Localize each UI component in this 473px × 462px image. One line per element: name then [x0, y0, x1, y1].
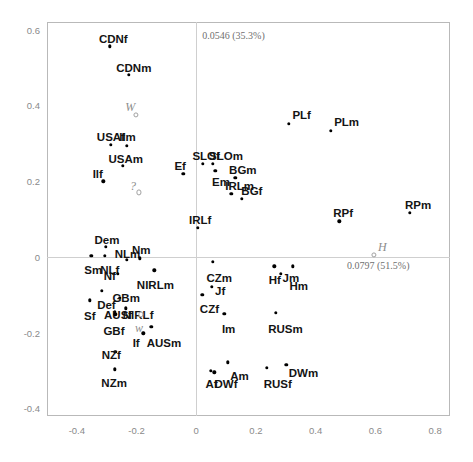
data-point-label: Sf [84, 311, 96, 323]
data-point-label: CZm [206, 273, 232, 285]
data-point-label: BGf [241, 186, 262, 198]
data-point-label: Nm [132, 245, 151, 257]
scatter-plot-canvas: 0.0546 (35.3%) 0.0797 (51.5%) -0.4-0.200… [0, 0, 473, 462]
data-point-label: Nf [104, 271, 116, 283]
y-tick-label: 0 [6, 251, 40, 262]
vertical-axis-annotation: 0.0546 (35.3%) [202, 30, 265, 41]
data-point-label: Jf [215, 286, 225, 298]
data-point-label: Hf [269, 275, 281, 287]
data-point-label: DWf [214, 379, 237, 391]
data-point-label: Ilm [119, 132, 136, 144]
data-point-label: PLf [292, 110, 311, 122]
x-tick-label: -0.4 [69, 425, 85, 436]
x-tick-label: 0 [194, 425, 199, 436]
data-point-label: GBm [112, 293, 139, 305]
data-point-label: CDNm [116, 63, 151, 75]
y-tick-label: -0.2 [6, 327, 40, 338]
data-point-label: DWm [289, 368, 318, 380]
horizontal-zero-axis [47, 257, 450, 258]
y-tick-label: 0.4 [6, 100, 40, 111]
x-tick-label: -0.2 [128, 425, 144, 436]
data-point-label: Hm [289, 281, 308, 293]
data-point-label: USAm [108, 154, 143, 166]
y-tick-label: 0.2 [6, 176, 40, 187]
horizontal-axis-annotation: 0.0797 (51.5%) [347, 260, 410, 271]
data-point-label: Im [222, 324, 235, 336]
data-point-label: NZm [101, 378, 127, 390]
data-point-label: ? [130, 180, 136, 192]
data-point-label: AUSm [147, 338, 182, 350]
data-point-label: IRLf [189, 215, 211, 227]
data-point-label: If [133, 338, 140, 350]
data-point-label: RUSm [268, 324, 303, 336]
data-point-label: W [125, 101, 135, 113]
x-tick-label: 0.4 [309, 425, 322, 436]
data-point-label: RUSf [264, 379, 292, 391]
y-tick-label: -0.4 [6, 403, 40, 414]
data-point-label: Ef [174, 161, 186, 173]
x-tick-label: 0.8 [428, 425, 441, 436]
data-point-label: Dem [94, 235, 119, 247]
x-tick-label: 0.6 [369, 425, 382, 436]
data-point-label: RPm [405, 200, 431, 212]
data-point-label: BGm [229, 165, 256, 177]
data-point-label: CZf [200, 304, 219, 316]
data-point-label: PLm [334, 117, 359, 129]
data-point-label: RPf [333, 208, 353, 220]
data-point-label: SLOm [209, 151, 243, 163]
data-point-label: H [378, 241, 387, 253]
data-point-label: NIRLm [137, 280, 174, 292]
data-point-label: CDNf [99, 34, 128, 46]
y-tick-label: 0.6 [6, 24, 40, 35]
data-point-label: NZf [102, 350, 121, 362]
data-point-label: Ilf [93, 169, 103, 181]
data-point-label: GBf [103, 326, 124, 338]
x-tick-label: 0.2 [249, 425, 262, 436]
